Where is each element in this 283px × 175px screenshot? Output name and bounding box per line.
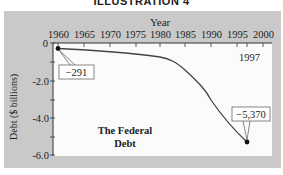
svg-text:−291: −291 [66,67,88,78]
svg-text:1980: 1980 [150,29,171,40]
year-1997-label: 1997 [239,52,260,63]
svg-text:1965: 1965 [74,29,95,40]
svg-text:1960: 1960 [48,29,69,40]
svg-text:1995: 1995 [227,29,248,40]
svg-text:1975: 1975 [125,29,146,40]
svg-text:-4.0: -4.0 [32,113,49,124]
svg-text:-2.0: -2.0 [32,76,49,87]
end-value-callout: −5,370 [232,107,270,140]
y-axis-title: Debt ($ billions) [8,74,20,140]
debt-line [58,49,247,143]
x-ticks [58,43,263,47]
x-axis-title: Year [150,16,171,28]
svg-text:0: 0 [43,38,48,49]
federal-debt-chart: 1960 1965 1970 1975 1980 1985 1990 1995 … [0,0,283,175]
chart-title-line1: The Federal [98,125,153,136]
chart-title-line2: Debt [114,138,136,149]
end-point-marker[interactable] [245,140,250,145]
svg-text:2000: 2000 [253,29,274,40]
svg-text:1985: 1985 [175,29,196,40]
x-tick-labels: 1960 1965 1970 1975 1980 1985 1990 1995 … [48,29,274,40]
svg-text:-6.0: -6.0 [32,150,49,161]
svg-text:−5,370: −5,370 [236,109,266,120]
start-value-callout: −291 [59,50,94,79]
svg-text:1970: 1970 [100,29,121,40]
svg-text:1990: 1990 [201,29,222,40]
y-tick-labels: 0 -2.0 -4.0 -6.0 [32,38,49,161]
